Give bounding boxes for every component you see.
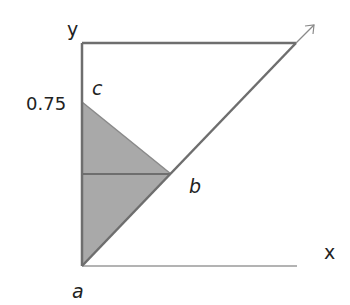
vertex-label-c: c bbox=[92, 77, 103, 99]
vertex-label-b: b bbox=[189, 175, 201, 197]
y-axis-label: y bbox=[67, 18, 78, 40]
x-axis-label: x bbox=[324, 241, 335, 263]
diagonal-arrow-shaft bbox=[296, 25, 314, 43]
y-tick-label: 0.75 bbox=[26, 93, 66, 114]
vertex-label-a: a bbox=[72, 280, 84, 302]
shaded-triangle-abc bbox=[82, 102, 171, 266]
region-diagram: y x 0.75 c b a bbox=[0, 0, 350, 305]
